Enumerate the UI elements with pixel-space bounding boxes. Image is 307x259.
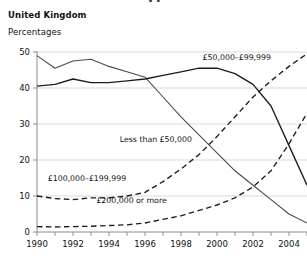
series-line-3 bbox=[37, 113, 307, 227]
svg-text:10: 10 bbox=[19, 191, 30, 201]
svg-text:2004: 2004 bbox=[278, 239, 300, 249]
svg-text:1992: 1992 bbox=[62, 239, 84, 249]
svg-text:30: 30 bbox=[19, 119, 30, 129]
x-axis bbox=[37, 232, 307, 236]
svg-text:1996: 1996 bbox=[134, 239, 156, 249]
svg-text:1998: 1998 bbox=[170, 239, 192, 249]
svg-text:2002: 2002 bbox=[242, 239, 264, 249]
svg-text:50: 50 bbox=[19, 47, 30, 57]
series-label-3: £200,000 or more bbox=[96, 196, 167, 205]
svg-text:40: 40 bbox=[19, 83, 30, 93]
series-label-0: Less than £50,000 bbox=[120, 135, 192, 144]
svg-text:1990: 1990 bbox=[26, 239, 48, 249]
y-tick-labels: 01020304050 bbox=[19, 47, 30, 237]
x-tick-labels: 19901992199419961998200020022004 bbox=[26, 239, 300, 249]
svg-text:1994: 1994 bbox=[98, 239, 120, 249]
series-label-1: £50,000–£99,999 bbox=[203, 53, 271, 62]
line-chart: 01020304050 1990199219941996199820002002… bbox=[0, 0, 307, 259]
y-axis bbox=[33, 51, 37, 232]
svg-text:20: 20 bbox=[19, 155, 30, 165]
svg-text:2000: 2000 bbox=[206, 239, 228, 249]
chart-screenshot: 31 United Kingdom Percentages 0102030405… bbox=[0, 0, 307, 259]
series-label-2: £100,000–£199,999 bbox=[48, 174, 126, 183]
svg-text:0: 0 bbox=[25, 227, 30, 237]
